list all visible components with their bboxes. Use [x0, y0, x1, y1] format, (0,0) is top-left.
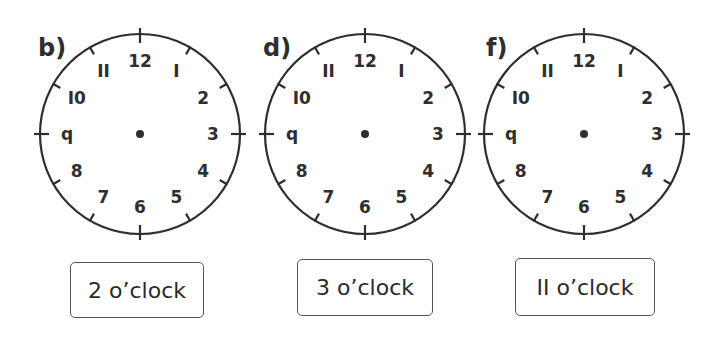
hour-numeral: 3: [651, 124, 663, 144]
hour-numeral: 2: [641, 88, 653, 108]
hour-tick: [497, 180, 505, 185]
hour-numeral: 4: [641, 161, 653, 181]
hour-tick: [664, 84, 672, 89]
hour-tick: [497, 84, 505, 89]
center-dot: [580, 130, 588, 138]
hour-numeral: 6: [578, 197, 590, 217]
hour-numeral: 7: [542, 187, 554, 207]
hour-tick: [534, 47, 539, 55]
hour-numeral: 8: [515, 161, 527, 181]
answer-box: II o’clock: [515, 258, 655, 316]
hour-numeral: I: [617, 61, 623, 81]
hour-tick: [534, 214, 539, 222]
hour-numeral: II: [541, 61, 554, 81]
hour-numeral: 12: [572, 51, 596, 71]
answer-text: II o’clock: [537, 275, 634, 300]
hour-numeral: q: [505, 124, 517, 144]
hour-tick: [630, 214, 635, 222]
hour-tick: [630, 47, 635, 55]
hour-tick: [664, 180, 672, 185]
hour-numeral: I0: [512, 88, 530, 108]
hour-numeral: 5: [615, 187, 627, 207]
